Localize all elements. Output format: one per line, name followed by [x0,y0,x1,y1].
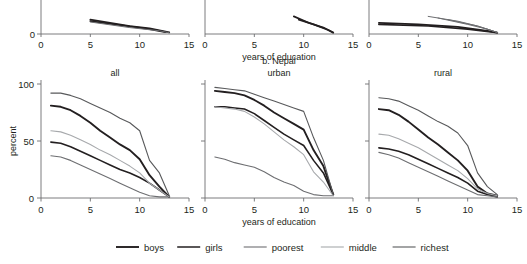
x-tick-label: 15 [184,204,195,215]
x-tick-label: 0 [38,39,43,50]
series-line-middle [215,107,333,196]
x-tick-label: 10 [462,39,473,50]
x-tick-label: 5 [252,39,257,50]
legend-label-poorest: poorest [272,242,304,253]
panel-title-rural: rural [434,68,452,78]
y-tick-label: 50 [23,136,34,147]
panel-title-urban: urban [267,68,290,78]
series-line-richest [379,98,497,195]
panel-all: all051015050100 [18,68,194,215]
x-tick-label: 5 [252,204,257,215]
x-tick-label: 10 [134,39,145,50]
x-tick-label: 15 [348,204,359,215]
x-tick-label: 10 [298,204,309,215]
legend-label-richest: richest [421,242,449,253]
x-tick-label: 5 [88,204,93,215]
chart-svg: 0510150510150510150years of educationb. … [0,0,527,264]
panel-urban: urban051015 [201,68,358,215]
x-tick-label: 15 [348,39,359,50]
y-axis-label: percent [8,125,18,156]
x-tick-label: 15 [184,39,195,50]
panel-title-all: all [110,68,119,78]
x-tick-label: 5 [88,39,93,50]
legend-label-boys: boys [144,242,164,253]
x-tick-label: 10 [298,39,309,50]
x-tick-label: 15 [512,39,523,50]
y-tick-label: 0 [29,193,34,204]
x-tick-label: 0 [366,39,371,50]
series-line-richest [51,93,169,196]
series-line-girls [51,142,169,197]
x-tick-label: 0 [38,204,43,215]
y-tick-label: 100 [18,79,34,90]
x-tick-label: 5 [416,39,421,50]
cropped-panel-1: 051015 [202,0,358,50]
x-tick-label: 0 [366,204,371,215]
x-axis-label: years of education [242,217,316,227]
series-line-girls [215,107,333,195]
cropped-series-line [299,20,334,33]
group-title: b. Nepal [262,56,296,66]
legend: boysgirlspoorestmiddlerichest [116,242,449,253]
legend-label-middle: middle [349,242,377,253]
panel-rural: rural051015 [365,68,522,215]
x-tick-label: 15 [512,204,523,215]
series-line-richest [215,87,333,194]
x-tick-label: 0 [202,204,207,215]
series-line-middle [51,131,169,197]
x-tick-label: 10 [462,204,473,215]
x-tick-label: 0 [202,39,207,50]
x-tick-label: 5 [416,204,421,215]
legend-label-girls: girls [205,242,223,253]
series-line-boys [51,106,169,197]
x-tick-label: 10 [134,204,145,215]
figure-nepal-attendance: 0510150510150510150years of educationb. … [0,0,527,264]
y-tick-label-top: 0 [30,29,35,40]
